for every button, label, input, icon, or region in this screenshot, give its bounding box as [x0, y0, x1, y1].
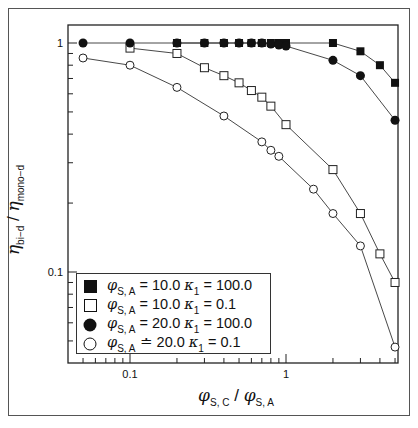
y-title-sub1: bi−d — [15, 226, 26, 245]
legend-item: φS, A ≐ 20.0 κ1 = 0.1 — [83, 334, 270, 353]
open-circle-marker-icon — [83, 337, 97, 351]
legend-label: φS, A = 20.0 κ1 = 100.0 — [107, 315, 252, 335]
open-square-marker-icon — [376, 250, 384, 258]
series-line — [130, 48, 395, 282]
open-circle-marker-icon — [220, 112, 228, 120]
open-circle-marker-icon — [356, 242, 364, 250]
legend: φS, A = 10.0 κ1 = 100.0 φS, A = 10.0 κ1 … — [76, 273, 271, 354]
filled-circle-marker-icon — [356, 71, 365, 80]
open-square-marker-icon — [235, 79, 243, 87]
filled-square-marker-icon — [356, 47, 364, 55]
legend-item: φS, A = 10.0 κ1 = 100.0 — [83, 277, 270, 296]
legend-item: φS, A = 10.0 κ1 = 0.1 — [83, 296, 270, 315]
x-axis-title: φS, C / φS, A — [198, 385, 274, 408]
open-square-marker-icon — [247, 87, 255, 95]
filled-circle-marker-icon — [172, 39, 181, 48]
eta-symbol: η — [3, 245, 23, 255]
open-circle-marker-icon — [309, 185, 317, 193]
open-circle-marker-icon — [126, 61, 134, 69]
y-tick-label: 0.1 — [48, 266, 63, 278]
filled-circle-marker-icon — [235, 39, 244, 48]
x-tick-label: 1 — [283, 368, 289, 380]
x-title-sep: / — [229, 386, 243, 405]
open-square-marker-icon — [391, 278, 399, 286]
filled-circle-marker-icon — [79, 39, 88, 48]
filled-circle-marker-icon — [282, 42, 291, 51]
filled-circle-marker-icon — [200, 39, 209, 48]
open-square-marker-icon — [258, 93, 266, 101]
open-square-marker-icon — [220, 72, 228, 80]
y-title-sub2: mono−d — [15, 165, 26, 201]
open-square-marker-icon — [329, 166, 337, 174]
legend-item: φS, A = 20.0 κ1 = 100.0 — [83, 315, 270, 334]
filled-circle-marker-icon — [328, 56, 337, 65]
open-circle-marker-icon — [79, 54, 87, 62]
open-circle-marker-icon — [267, 146, 275, 154]
open-square-marker-icon — [267, 102, 275, 110]
legend-label: φS, A = 10.0 κ1 = 100.0 — [107, 277, 252, 297]
eta-symbol-2: η — [3, 201, 23, 211]
filled-square-marker-icon — [376, 61, 384, 69]
filled-circle-marker-icon — [83, 318, 97, 332]
y-tick-label: 1 — [57, 37, 63, 49]
filled-circle-marker-icon — [257, 39, 266, 48]
filled-circle-marker-icon — [219, 39, 228, 48]
legend-label: φS, A = 10.0 κ1 = 0.1 — [107, 296, 236, 316]
legend-label: φS, A ≐ 20.0 κ1 = 0.1 — [107, 334, 241, 354]
y-title-sep: / — [4, 212, 23, 226]
open-square-marker-icon — [173, 49, 181, 57]
open-circle-marker-icon — [173, 83, 181, 91]
open-square-marker-icon — [282, 121, 290, 129]
open-square-marker-icon — [83, 299, 97, 313]
x-tick-label: 0.1 — [122, 368, 137, 380]
plot-area: 0.1110.1 — [0, 0, 418, 428]
open-circle-marker-icon — [275, 152, 283, 160]
filled-circle-marker-icon — [391, 116, 400, 125]
filled-square-marker-icon — [329, 39, 337, 47]
phi-symbol: φ — [198, 385, 210, 405]
filled-circle-marker-icon — [126, 39, 135, 48]
x-title-sub2: S, A — [256, 397, 274, 408]
open-square-marker-icon — [200, 64, 208, 72]
open-square-marker-icon — [356, 210, 364, 218]
open-circle-marker-icon — [391, 343, 399, 351]
open-circle-marker-icon — [258, 138, 266, 146]
filled-circle-marker-icon — [266, 39, 275, 48]
filled-square-marker-icon — [391, 79, 399, 87]
filled-circle-marker-icon — [247, 39, 256, 48]
y-axis-title: ηbi−d / ηmono−d — [3, 165, 26, 255]
x-title-sub1: S, C — [210, 397, 229, 408]
filled-square-marker-icon — [83, 280, 97, 294]
open-circle-marker-icon — [329, 210, 337, 218]
phi-symbol-2: φ — [244, 385, 256, 405]
